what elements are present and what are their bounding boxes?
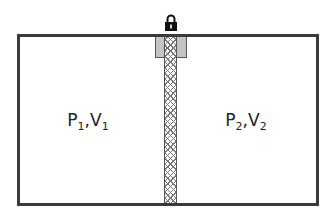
- volume-symbol: V: [90, 110, 102, 130]
- left-compartment-label: P1,V1: [67, 110, 108, 133]
- right-compartment-label: P2,V2: [225, 110, 266, 133]
- volume-subscript: 2: [260, 120, 267, 133]
- volume-symbol: V: [248, 110, 260, 130]
- lock-icon: [164, 14, 178, 32]
- pressure-symbol: P: [67, 110, 77, 130]
- volume-subscript: 1: [102, 120, 109, 133]
- piston-partition: [164, 37, 177, 203]
- pressure-symbol: P: [225, 110, 235, 130]
